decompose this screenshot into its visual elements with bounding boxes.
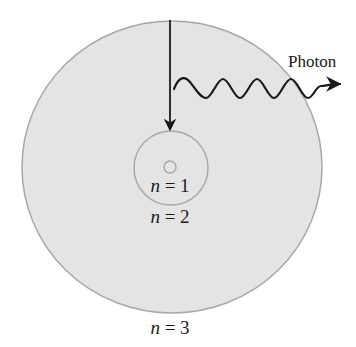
level-eq: = 1 [160,175,190,196]
level-var: n [150,317,160,338]
level-label-n3: n = 3 [150,318,189,337]
photon-label: Photon [288,53,336,70]
level-eq: = 3 [160,317,190,338]
level-var: n [150,175,160,196]
level-var: n [150,206,160,227]
level-label-n1: n = 1 [150,176,189,195]
level-eq: = 2 [160,206,190,227]
level-label-n2: n = 2 [150,207,189,226]
orbit-n3 [22,21,322,313]
